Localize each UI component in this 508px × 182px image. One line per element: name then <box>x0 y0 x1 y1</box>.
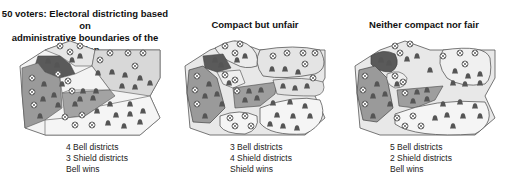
panel-compact-unfair: Compact but unfair 3 Bell districts 4 Sh… <box>170 0 340 182</box>
panel-caption: 5 Bell districts 2 Shield districts Bell… <box>390 142 452 175</box>
district-map <box>335 38 508 138</box>
panel-caption: 3 Bell districts 4 Shield districts Shie… <box>230 142 292 175</box>
district-map <box>165 38 340 138</box>
panel-title: Neither compact nor fair <box>340 19 508 31</box>
panel-title: Compact but unfair <box>170 19 340 31</box>
panel-neither-compact-nor-fair: Neither compact nor fair 5 Bell district… <box>340 0 508 182</box>
panel-administrative: 50 voters: Electoral districting based o… <box>0 0 170 182</box>
panel-caption: 4 Bell districts 3 Shield districts Bell… <box>66 142 128 175</box>
district-map <box>0 38 170 138</box>
